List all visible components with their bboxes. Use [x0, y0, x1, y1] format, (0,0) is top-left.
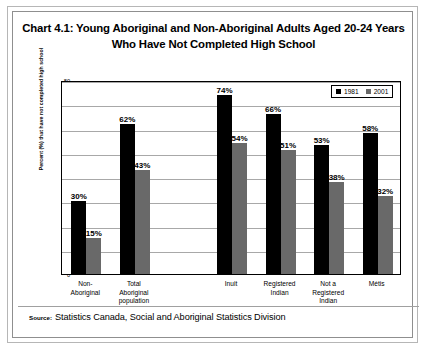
bar-value-label: 54%	[231, 134, 247, 143]
bars-holder	[62, 82, 111, 274]
bars-holder	[111, 82, 160, 274]
bar-1981[interactable]	[217, 95, 232, 274]
bars-holder	[208, 82, 257, 274]
chart-body: Percent (%) that have not completed high…	[13, 12, 414, 339]
legend-item-1981[interactable]: 1981	[336, 88, 359, 95]
bar-1981[interactable]	[120, 124, 135, 274]
bars-holder	[159, 82, 208, 274]
bar-1981[interactable]	[266, 114, 281, 274]
bars-holder	[353, 82, 402, 274]
bar-2001[interactable]	[86, 238, 101, 274]
bar-2001[interactable]	[329, 182, 344, 274]
bar-value-label: 74%	[216, 86, 232, 95]
bar-value-label: 32%	[377, 187, 393, 196]
y-axis-title: Percent (%) that have not completed high…	[38, 19, 44, 199]
bar-group	[111, 82, 160, 274]
source-label: Source:	[29, 314, 52, 321]
bar-group	[62, 82, 111, 274]
bar-group	[353, 82, 402, 274]
plot-area: 30%15%62%43%74%54%66%51%53%38%58%32%	[61, 81, 401, 275]
bar-1981[interactable]	[314, 145, 329, 274]
bar-group	[208, 82, 257, 274]
legend-swatch-1981	[336, 89, 341, 94]
source-line: Source: Statistics Canada, Social and Ab…	[29, 312, 286, 322]
chart-legend: 19812001	[331, 85, 393, 98]
bar-value-label: 15%	[86, 229, 102, 238]
x-category-label: Total Aboriginal population	[100, 280, 169, 306]
bar-1981[interactable]	[71, 201, 86, 274]
figure-inner-frame: Chart 4.1: Young Aboriginal and Non-Abor…	[12, 11, 413, 338]
bar-value-label: 51%	[280, 141, 296, 150]
bar-group	[159, 82, 208, 274]
bar-value-label: 58%	[362, 124, 378, 133]
bar-2001[interactable]	[378, 196, 393, 274]
bar-2001[interactable]	[135, 170, 150, 274]
figure-outer-frame: Chart 4.1: Young Aboriginal and Non-Abor…	[7, 6, 418, 343]
bar-value-label: 53%	[314, 136, 330, 145]
legend-label: 2001	[374, 88, 389, 95]
source-text: Statistics Canada, Social and Aboriginal…	[55, 312, 285, 322]
x-category-label: Métis	[342, 280, 411, 289]
bar-2001[interactable]	[232, 143, 247, 274]
bar-2001[interactable]	[281, 150, 296, 274]
source-divider	[18, 306, 419, 307]
legend-item-2001[interactable]: 2001	[366, 88, 389, 95]
bar-value-label: 66%	[265, 105, 281, 114]
bar-value-label: 38%	[329, 173, 345, 182]
legend-label: 1981	[344, 88, 359, 95]
bar-value-label: 43%	[134, 161, 150, 170]
bar-value-label: 30%	[71, 192, 87, 201]
legend-swatch-2001	[366, 89, 371, 94]
bar-1981[interactable]	[363, 133, 378, 274]
bar-value-label: 62%	[119, 115, 135, 124]
plot-inner: 30%15%62%43%74%54%66%51%53%38%58%32%	[62, 82, 400, 274]
